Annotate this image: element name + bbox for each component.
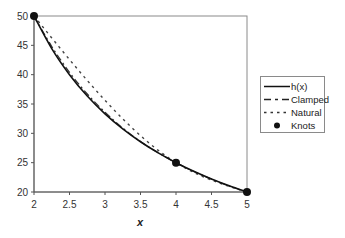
y-axis-ticks: 20253035404550 [17, 11, 34, 198]
x-tick-label: 3 [102, 199, 108, 210]
y-tick-label: 50 [17, 11, 29, 22]
y-tick-label: 45 [17, 40, 29, 51]
x-tick-label: 2 [31, 199, 37, 210]
solid-line-icon [264, 81, 290, 92]
legend-label: h(x) [291, 80, 307, 93]
legend-item-hx: h(x) [261, 80, 326, 93]
x-axis-label: x [136, 216, 144, 228]
x-tick-label: 4 [173, 199, 179, 210]
plot-frame [34, 16, 247, 192]
dotted-line-icon [264, 107, 290, 118]
series-natural [34, 16, 247, 192]
y-tick-label: 40 [17, 69, 29, 80]
knot-marker [243, 188, 251, 196]
y-tick-label: 30 [17, 128, 29, 139]
legend-label: Clamped [291, 93, 329, 106]
legend-label: Knots [291, 119, 315, 132]
x-tick-label: 2.5 [63, 199, 77, 210]
x-tick-label: 5 [244, 199, 250, 210]
knot-marker [172, 159, 180, 167]
y-tick-label: 35 [17, 99, 29, 110]
y-tick-label: 25 [17, 157, 29, 168]
legend: h(x) Clamped Natural Knots [260, 76, 325, 133]
knot-marker [30, 12, 38, 20]
x-axis-ticks: 22.533.544.55 [31, 192, 250, 210]
series-clamped [34, 16, 247, 192]
x-tick-label: 3.5 [134, 199, 148, 210]
legend-label: Natural [291, 106, 322, 119]
dashed-line-icon [264, 94, 290, 105]
x-tick-label: 4.5 [205, 199, 219, 210]
knot-marker-icon [264, 120, 290, 131]
series-h-x- [34, 16, 247, 192]
legend-item-knots: Knots [261, 119, 326, 132]
legend-item-natural: Natural [261, 106, 326, 119]
legend-item-clamped: Clamped [261, 93, 326, 106]
data-series [30, 12, 251, 196]
y-tick-label: 20 [17, 187, 29, 198]
